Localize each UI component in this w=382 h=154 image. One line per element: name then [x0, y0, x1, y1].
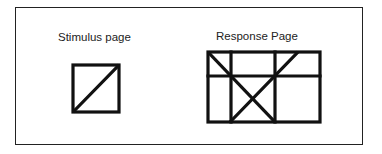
stimulus-figure: [73, 65, 119, 112]
figures: [0, 0, 382, 154]
response-figure: [208, 52, 320, 122]
